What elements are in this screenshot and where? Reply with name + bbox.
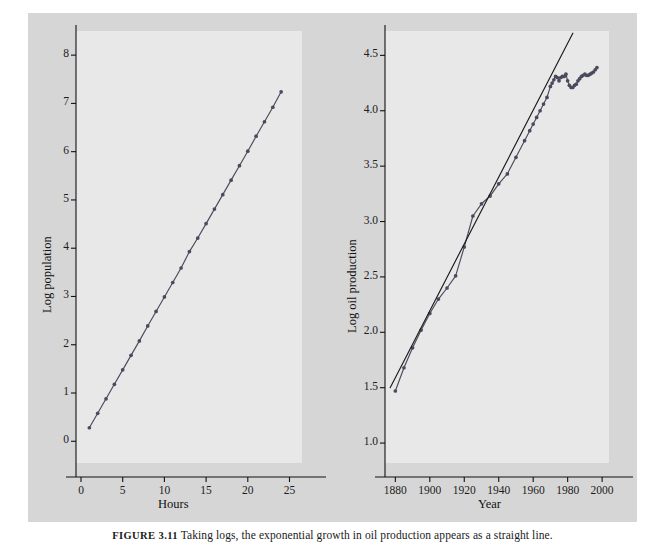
y-tick-label: 1.5 <box>345 380 378 392</box>
y-tick-label: 5 <box>36 192 69 204</box>
x-axis-title-right: Year <box>478 497 501 512</box>
figure-caption-text: Taking logs, the exponential growth in o… <box>181 529 553 541</box>
y-tick-label: 3.5 <box>345 158 378 170</box>
y-tick-label: 2 <box>36 337 69 349</box>
figure-caption: FIGURE 3.11 Taking logs, the exponential… <box>0 528 665 544</box>
y-axis-title-left: Log population <box>40 236 55 313</box>
y-tick-label: 7 <box>36 95 69 107</box>
y-axis-title-right: Log oil production <box>345 239 360 333</box>
y-tick-label: 3.0 <box>345 214 378 226</box>
y-tick-label: 1.0 <box>345 435 378 447</box>
x-tick-label: 25 <box>264 484 314 496</box>
plot-svg-right <box>333 13 637 522</box>
y-tick-label: 4.5 <box>345 47 378 59</box>
figure-caption-label: FIGURE 3.11 <box>112 530 178 541</box>
figure-panel-background: 0123456780510152025 Log population Hours… <box>28 13 637 522</box>
chart-log-population: 0123456780510152025 Log population Hours <box>28 13 332 522</box>
y-tick-label: 4.0 <box>345 103 378 115</box>
y-tick-label: 6 <box>36 144 69 156</box>
y-tick-label: 8 <box>36 47 69 59</box>
y-tick-label: 0 <box>36 433 69 445</box>
chart-log-oil-production: 1.01.52.02.53.03.54.04.51880190019201940… <box>333 13 637 522</box>
x-tick-label: 2000 <box>577 484 627 496</box>
plot-svg-left <box>28 13 332 522</box>
x-axis-title-left: Hours <box>158 497 189 512</box>
y-tick-label: 1 <box>36 385 69 397</box>
